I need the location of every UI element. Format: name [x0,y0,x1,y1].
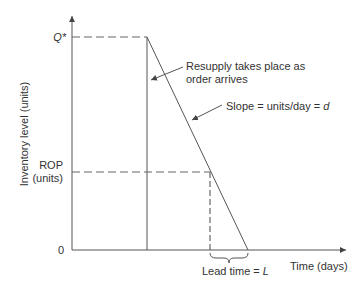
resupply-annotation-line2: order arrives [186,73,248,85]
rop-units-label: (units) [32,172,63,184]
x-axis-label: Time (days) [290,260,348,272]
slope-annotation: Slope = units/day = d [226,100,330,112]
rop-label: ROP [39,159,63,171]
lead-time-variable: L [263,265,269,277]
slope-text: Slope = units/day = [226,100,323,112]
y-axis-label: Inventory level (units) [18,82,30,187]
q-star-label: Q* [53,31,67,43]
lead-time-brace [210,253,248,263]
slope-variable: d [323,100,330,112]
lead-time-annotation: Lead time = L [202,265,269,277]
diagram-canvas: Q* ROP (units) 0 Inventory level (units)… [0,0,363,292]
slope-arrow [192,105,222,120]
lead-time-text: Lead time = [202,265,263,277]
reorder-point-diagram: Q* ROP (units) 0 Inventory level (units)… [0,0,363,292]
resupply-annotation-line1: Resupply takes place as [186,60,306,72]
zero-label: 0 [58,244,64,256]
